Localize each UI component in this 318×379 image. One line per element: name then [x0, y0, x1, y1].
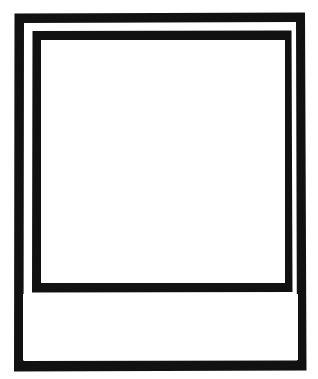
photo-area [41, 40, 285, 283]
polaroid-frame-canvas [0, 0, 318, 379]
caption-area [23, 294, 298, 360]
